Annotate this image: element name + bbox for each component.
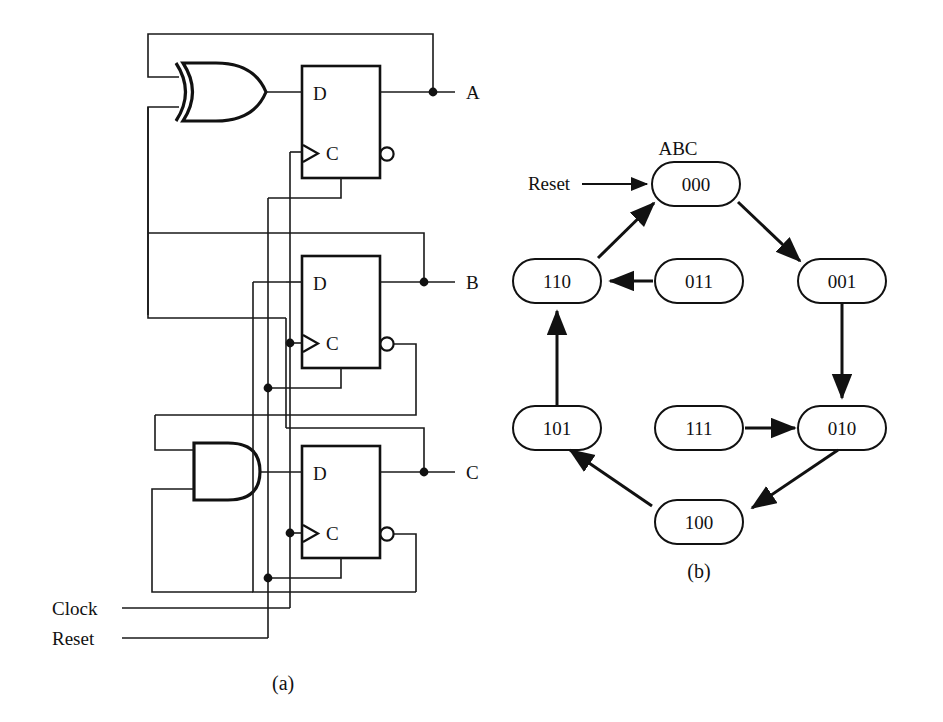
state-111-label: 111 [685,418,712,439]
state-001-label: 001 [828,271,857,292]
ff-b-qbar-bubble-icon [380,337,393,350]
xor-gate-arc-icon [176,63,186,121]
wire-xor-input2-rail [148,107,286,318]
wire-reset-to-ffb-bottom [268,368,341,388]
flipflop-c[interactable]: D C [302,446,394,558]
junction-dot-b [420,278,429,287]
panel-a-circuit: D C D C D C [52,34,480,695]
wire-reset-to-ffc-bottom [268,558,341,578]
transition-100-to-101 [570,450,652,506]
reset-input-label: Reset [52,628,95,649]
state-100-label: 100 [685,512,714,533]
state-node-010[interactable]: 010 [798,406,886,450]
junction-dot-c [420,468,429,477]
wire-ffa-bottom-stub [268,178,341,198]
state-diagram-heading: ABC [658,138,697,159]
clock-input-label: Clock [52,598,98,619]
reset-entry-label: Reset [528,173,571,194]
state-010-label: 010 [828,418,857,439]
junction-dot-reset-c [264,574,273,583]
transition-000-to-001 [738,202,800,261]
ff-c-d-label: D [313,463,327,484]
and-gate-body[interactable] [194,443,260,500]
figure-svg: D C D C D C [0,0,943,722]
state-node-111[interactable]: 111 [655,406,743,450]
state-011-label: 011 [685,271,713,292]
state-node-101[interactable]: 101 [513,406,601,450]
state-node-110[interactable]: 110 [513,259,601,303]
junction-dot-a [429,88,438,97]
panel-a-caption: (a) [272,672,294,695]
xor-gate-body[interactable] [183,63,266,121]
ff-a-d-label: D [313,83,327,104]
ff-b-d-label: D [313,273,327,294]
flipflop-b[interactable]: D C [302,256,394,368]
ff-c-qbar-bubble-icon [380,527,393,540]
state-000-label: 000 [682,174,711,195]
panel-b-state-diagram: ABC Reset 000 110 011 001 101 [513,138,886,583]
and-gate[interactable] [194,443,260,500]
circuit-wires: A [52,34,480,649]
ff-a-c-label: C [326,143,339,164]
wire-and-in2-rail [152,489,253,592]
state-101-label: 101 [543,418,572,439]
figure-canvas: D C D C D C [0,0,943,722]
ff-b-c-label: C [326,333,339,354]
wire-b-feedback-top [148,233,424,282]
state-node-100[interactable]: 100 [655,500,743,544]
ff-a-qbar-bubble-icon [380,147,393,160]
output-label-b: B [466,272,479,293]
output-label-a: A [466,82,480,103]
panel-b-caption: (b) [687,560,710,583]
junction-dot-reset-b [264,384,273,393]
transition-010-to-100 [752,450,838,508]
xor-gate[interactable] [176,63,266,121]
output-label-c: C [466,462,479,483]
transition-110-to-000 [598,203,654,258]
state-110-label: 110 [543,271,571,292]
state-transitions [557,202,842,508]
junction-dot-clock-b [286,339,295,348]
junction-dot-clock-c [286,529,295,538]
wire-xor-input2-rail-top [148,107,179,315]
ff-c-c-label: C [326,523,339,544]
state-node-001[interactable]: 001 [798,259,886,303]
wire-ffb-qbar-to-and-in1 [155,415,194,450]
state-node-011[interactable]: 011 [655,259,743,303]
flipflop-a[interactable]: D C [302,66,394,178]
wire-ffc-qbar-out [394,534,416,592]
state-node-000[interactable]: 000 [652,162,740,206]
